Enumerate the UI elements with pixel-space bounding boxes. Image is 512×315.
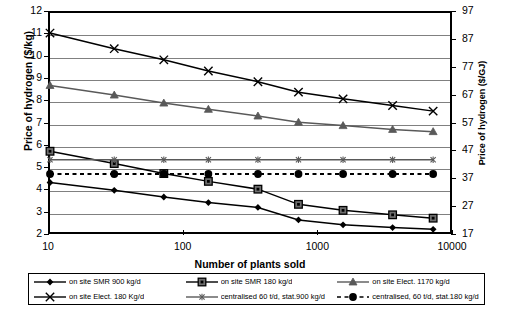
legend-label: on site SMR 900 kg/d: [69, 277, 141, 286]
x-tick-mark: [48, 230, 49, 235]
y-tick-label-right: 17: [462, 227, 496, 239]
data-point-square: [295, 201, 303, 209]
y-tick-mark-right: [451, 150, 456, 151]
x-tick-mark: [317, 230, 318, 235]
data-point-square: [254, 185, 262, 193]
data-point-diamond: [389, 224, 396, 231]
data-point-diamond: [295, 217, 302, 224]
y-tick-mark-left: [44, 11, 49, 12]
x-tick-label: 1000: [287, 240, 347, 252]
y-tick-label-right: 97: [462, 4, 496, 16]
legend-swatch-circle: [336, 292, 370, 302]
x-tick-label: 10: [18, 240, 78, 252]
data-point-diamond: [430, 226, 437, 233]
data-point-diamond: [111, 187, 118, 194]
series-line-2: [50, 85, 433, 131]
y-tick-mark-right: [451, 39, 456, 40]
legend-swatch-triangle: [336, 277, 370, 287]
y-tick-label-left: 10: [12, 49, 42, 61]
data-point-circle: [160, 170, 168, 178]
data-point-circle: [295, 170, 303, 178]
data-point-diamond: [47, 278, 54, 285]
y-tick-label-left: 2: [12, 227, 42, 239]
data-point-circle: [429, 170, 437, 178]
data-point-diamond: [340, 221, 347, 228]
data-point-circle: [349, 293, 357, 301]
data-point-square: [198, 278, 206, 286]
y-tick-mark-right: [451, 95, 456, 96]
legend-label: on site SMR 180 kg/d: [221, 277, 293, 286]
data-point-circle: [46, 170, 54, 178]
y-tick-label-left: 3: [12, 205, 42, 217]
chart-legend: on site SMR 900 kg/don site SMR 180 kg/d…: [28, 273, 485, 305]
y-tick-mark-right: [451, 11, 456, 12]
series-line-1: [50, 151, 433, 218]
legend-swatch-diamond: [33, 277, 67, 287]
data-point-circle: [204, 170, 212, 178]
y-tick-label-right: 37: [462, 171, 496, 183]
data-point-circle: [339, 170, 347, 178]
data-point-circle: [254, 170, 262, 178]
y-tick-mark-left: [44, 123, 49, 124]
chart-figure: Price of hydrogen ($/kg) Price of hydrog…: [0, 0, 512, 315]
data-point-circle: [110, 170, 118, 178]
y-tick-mark-left: [44, 145, 49, 146]
y-tick-mark-left: [44, 33, 49, 34]
series-line-0: [50, 182, 433, 229]
data-point-square: [389, 211, 397, 219]
legend-item: on site SMR 180 kg/d: [181, 274, 333, 289]
legend-label: centralised, 60 t/d, stat.180 kg/d: [372, 292, 478, 301]
x-axis-title: Number of plants sold: [150, 258, 350, 270]
legend-label: on site Elect. 180 Kg/d: [69, 292, 144, 301]
data-point-diamond: [205, 199, 212, 206]
y-tick-mark-right: [451, 206, 456, 207]
y-tick-label-left: 12: [12, 4, 42, 16]
y-tick-mark-left: [44, 56, 49, 57]
legend-item: on site SMR 900 kg/d: [29, 274, 181, 289]
y-tick-label-left: 9: [12, 71, 42, 83]
y-tick-label-right: 77: [462, 60, 496, 72]
plot-area: [48, 11, 452, 234]
y-tick-label-left: 7: [12, 116, 42, 128]
data-point-diamond: [47, 179, 54, 186]
y-tick-label-left: 11: [12, 26, 42, 38]
legend-label: centralised 60 t/d, stat.900 kg/d: [221, 292, 325, 301]
data-point-diamond: [160, 194, 167, 201]
legend-label: on site Elect. 1170 kg/d: [372, 277, 449, 286]
legend-swatch-cross: [33, 292, 67, 302]
y-tick-mark-right: [451, 178, 456, 179]
y-tick-mark-left: [44, 100, 49, 101]
data-point-square: [429, 214, 437, 222]
legend-swatch-star: [185, 292, 219, 302]
y-tick-label-right: 47: [462, 143, 496, 155]
y-tick-label-right: 67: [462, 88, 496, 100]
y-tick-mark-left: [44, 212, 49, 213]
x-tick-label: 100: [153, 240, 213, 252]
y-tick-mark-left: [44, 167, 49, 168]
data-point-triangle: [46, 81, 54, 88]
x-tick-mark: [183, 230, 184, 235]
y-tick-label-right: 27: [462, 199, 496, 211]
legend-item: on site Elect. 1170 kg/d: [332, 274, 484, 289]
y-tick-label-left: 8: [12, 93, 42, 105]
legend-item: on site Elect. 180 Kg/d: [29, 289, 181, 304]
data-point-square: [205, 178, 213, 186]
y-tick-label-left: 6: [12, 138, 42, 150]
y-tick-label-right: 87: [462, 32, 496, 44]
legend-item: centralised 60 t/d, stat.900 kg/d: [181, 289, 333, 304]
series-layer: [50, 13, 454, 236]
data-point-square: [46, 147, 54, 155]
y-tick-mark-right: [451, 123, 456, 124]
y-tick-label-left: 4: [12, 182, 42, 194]
y-tick-mark-left: [44, 189, 49, 190]
y-tick-label-right: 57: [462, 116, 496, 128]
data-point-square: [339, 207, 347, 215]
y-tick-label-left: 5: [12, 160, 42, 172]
legend-item: centralised, 60 t/d, stat.180 kg/d: [332, 289, 484, 304]
y-tick-mark-right: [451, 67, 456, 68]
series-line-3: [50, 33, 433, 111]
x-tick-mark: [452, 230, 453, 235]
y-tick-mark-left: [44, 78, 49, 79]
x-tick-label: 10000: [422, 240, 482, 252]
data-point-circle: [389, 170, 397, 178]
